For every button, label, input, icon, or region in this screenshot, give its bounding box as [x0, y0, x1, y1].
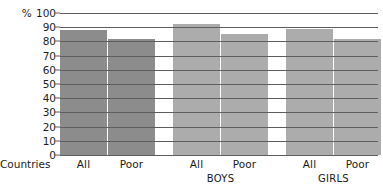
gridline-20	[60, 127, 378, 128]
gridline-30	[60, 112, 378, 113]
y-tick-30: 30	[0, 107, 56, 118]
gridline-60	[60, 70, 378, 71]
x-label-girls-poor: Poor	[334, 158, 381, 171]
y-tick-20: 20	[0, 121, 56, 132]
gridline-40	[60, 98, 378, 99]
y-tick-80: 80	[0, 36, 56, 47]
group-label-boys: BOYS	[173, 173, 268, 185]
gridline-70	[60, 56, 378, 57]
x-axis-labels: All Poor All Poor All Poor	[0, 158, 383, 174]
y-tick-50: 50	[0, 79, 56, 90]
gridline-100	[60, 13, 378, 14]
x-label-boys-all: All	[173, 158, 220, 171]
x-label-girls-all: All	[286, 158, 333, 171]
x-label-countries-all: All	[60, 158, 107, 171]
gridline-50	[60, 84, 378, 85]
y-tick-40: 40	[0, 93, 56, 104]
group-labels: BOYS GIRLS	[0, 173, 383, 189]
bar-boys-all	[173, 24, 220, 155]
group-label-girls: GIRLS	[286, 173, 381, 185]
y-tick-label: 100	[36, 7, 56, 19]
bar-boys-poor	[221, 34, 268, 155]
gridline-80	[60, 41, 378, 42]
x-label-countries-poor: Poor	[108, 158, 155, 171]
y-tick-90: 90	[0, 22, 56, 33]
bar-chart: % 100 90 80 70 60 50 40 30 20 10 0	[0, 0, 383, 191]
gridline-0-baseline	[60, 155, 378, 156]
plot-area	[60, 13, 378, 155]
y-tick-100: % 100	[0, 8, 56, 19]
gridline-10	[60, 141, 378, 142]
x-label-boys-poor: Poor	[221, 158, 268, 171]
bar-countries-all	[60, 30, 107, 155]
y-tick-70: 70	[0, 50, 56, 61]
y-tick-10: 10	[0, 136, 56, 147]
gridline-90	[60, 27, 378, 28]
y-tick-60: 60	[0, 65, 56, 76]
y-axis: % 100 90 80 70 60 50 40 30 20 10 0	[0, 13, 56, 155]
bar-girls-all	[286, 29, 333, 155]
percent-symbol: %	[22, 7, 32, 19]
